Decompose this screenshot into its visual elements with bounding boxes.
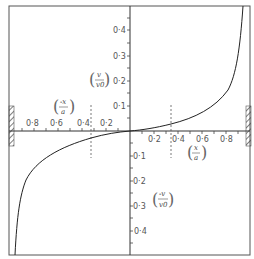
x-tick-label: 0·2 <box>148 135 161 144</box>
y-axis-label-positive: ( v v0 ) <box>89 70 110 89</box>
svg-text:a: a <box>61 108 65 116</box>
chart: 0·2 0·4 0·6 0·8 0·8 0·6 0·4 0·2 0·1 0·2 … <box>0 0 254 259</box>
y-tick-label: 0·3 <box>133 202 146 211</box>
svg-text:(: ( <box>152 190 158 209</box>
svg-text:): ) <box>168 190 174 209</box>
y-tick-label: 0·1 <box>133 152 146 161</box>
svg-text:(: ( <box>89 70 95 89</box>
svg-text:): ) <box>201 143 207 162</box>
svg-text:v0: v0 <box>159 201 168 209</box>
y-tick-label: 0·2 <box>113 77 126 86</box>
x-tick-label: 0·4 <box>77 119 90 128</box>
x-tick-label: 0·4 <box>172 135 185 144</box>
svg-text:x: x <box>194 144 198 152</box>
svg-text:a: a <box>194 154 198 162</box>
x-axis-label-positive: ( x a ) <box>187 143 207 162</box>
svg-text:(: ( <box>187 143 193 162</box>
y-tick-label: 0·3 <box>113 52 126 61</box>
y-tick-label: 0·4 <box>134 227 147 236</box>
y-tick-label: 0·1 <box>113 102 126 111</box>
left-wall-hatch <box>9 106 14 146</box>
x-tick-label: 0·2 <box>100 119 113 128</box>
svg-text:(: ( <box>53 97 59 116</box>
y-tick-label: 0·4 <box>113 26 126 35</box>
svg-text:-v: -v <box>159 190 165 198</box>
svg-text:-x: -x <box>60 98 66 106</box>
svg-text:v: v <box>97 71 101 79</box>
x-tick-label: 0·8 <box>26 119 39 128</box>
x-axis-label-negative: ( -x a ) <box>53 97 75 116</box>
x-tick-label: 0·8 <box>220 135 233 144</box>
svg-text:): ) <box>104 70 110 89</box>
y-tick-label: 0·2 <box>133 177 146 186</box>
y-axis-label-negative: ( -v v0 ) <box>152 190 174 209</box>
x-tick-label: 0·6 <box>50 119 63 128</box>
right-wall-hatch <box>246 106 251 146</box>
svg-text:): ) <box>69 97 75 116</box>
